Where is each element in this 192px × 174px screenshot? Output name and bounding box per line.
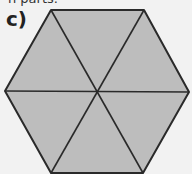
hexagon-figure (0, 0, 192, 174)
